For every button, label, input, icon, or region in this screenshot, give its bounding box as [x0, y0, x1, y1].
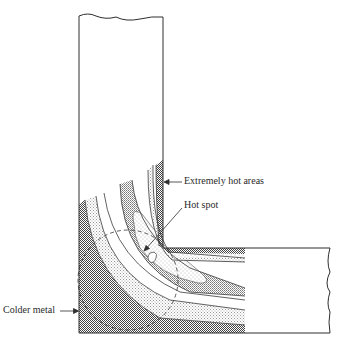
arrowhead-extremely-hot: [164, 180, 169, 185]
arrowhead-colder-metal: [74, 309, 79, 314]
heat-distribution-diagram: [0, 0, 343, 345]
label-hot-spot: Hot spot: [184, 200, 218, 210]
label-colder-metal: Colder metal: [3, 305, 55, 315]
label-extremely-hot-areas: Extremely hot areas: [184, 176, 264, 186]
